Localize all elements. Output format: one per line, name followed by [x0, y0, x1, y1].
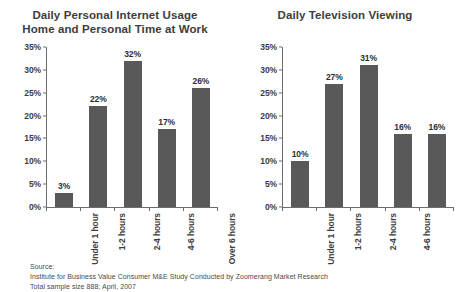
x-axis-category-labels: Under 1 hour 1-2 hours 2-4 hours 4-6 hou… [283, 213, 454, 269]
bar[interactable]: 3% [55, 193, 73, 207]
bar[interactable]: 27% [325, 84, 343, 207]
bar-slot: 32% [115, 47, 149, 207]
x-label-slot: Over 6 hours [420, 213, 454, 269]
bar-value-label: 26% [193, 76, 210, 86]
y-tick-label: 35% [24, 42, 41, 52]
bar-slot: 26% [184, 47, 218, 207]
y-tick-label: 35% [260, 42, 277, 52]
x-tick-mark [217, 207, 218, 211]
chart-television-viewing: Daily Television Viewing 35% 30% 25% 20%… [230, 0, 460, 258]
x-label-slot: Under 1 hour [283, 213, 317, 269]
x-label-slot: 4-6 hours [150, 213, 184, 269]
bar-slot: 3% [47, 47, 81, 207]
plot-area-internet-usage: 35% 30% 25% 20% 15% 10% 5% 0% [18, 47, 218, 215]
bar-value-label: 16% [394, 122, 411, 132]
x-label-slot: Under 1 hour [47, 213, 81, 269]
bar[interactable]: 26% [192, 88, 210, 207]
x-tick-mark [282, 207, 283, 211]
slide-canvas: Daily Personal Internet Usage Home and P… [0, 0, 460, 292]
bar[interactable]: 16% [394, 134, 412, 207]
source-label: Source: [30, 262, 54, 272]
x-tick-mark [149, 207, 150, 211]
bar-value-label: 10% [292, 149, 309, 159]
x-tick-mark [419, 207, 420, 211]
x-tick-mark [316, 207, 317, 211]
y-axis-television-viewing: 35% 30% 25% 20% 15% 10% 5% 0% [254, 47, 282, 207]
chart-title-television-viewing: Daily Television Viewing [230, 9, 460, 23]
bar[interactable]: 10% [291, 161, 309, 207]
bar[interactable]: 17% [158, 129, 176, 207]
plot-area-television-viewing: 35% 30% 25% 20% 15% 10% 5% 0% [254, 47, 454, 215]
x-label-slot: 1-2 hours [81, 213, 115, 269]
chart-title-line-1: Daily Personal Internet Usage [0, 9, 230, 23]
y-tick-label: 15% [24, 133, 41, 143]
x-tick-mark [114, 207, 115, 211]
source-text-line-2: Total sample size 888; April, 2007 [30, 282, 328, 292]
x-axis-category-labels: Under 1 hour 1-2 hours 2-4 hours 4-6 hou… [47, 213, 218, 269]
y-tick-label: 0% [29, 202, 41, 212]
x-label-slot: 4-6 hours [386, 213, 420, 269]
bar-value-label: 17% [158, 117, 175, 127]
x-tick-mark [46, 207, 47, 211]
bar[interactable]: 31% [360, 65, 378, 207]
x-label-slot: Over 6 hours [184, 213, 218, 269]
bar[interactable]: 16% [428, 134, 446, 207]
bar-value-label: 31% [360, 53, 377, 63]
source-text-line-1: Institute for Business Value Consumer M&… [30, 272, 328, 282]
bar-value-label: 27% [326, 72, 343, 82]
y-tick-label: 10% [24, 156, 41, 166]
bar[interactable]: 32% [124, 61, 142, 207]
bar-slot: 10% [283, 47, 317, 207]
x-label-slot: 1-2 hours [317, 213, 351, 269]
y-tick-label: 0% [265, 202, 277, 212]
bar-series-internet-usage: 3% 22% 32% 17% [47, 47, 218, 207]
bar-value-label: 16% [429, 122, 446, 132]
bar-series-television-viewing: 10% 27% 31% 16 [283, 47, 454, 207]
x-tick-mark [350, 207, 351, 211]
chart-title-line-2: Home and Personal Time at Work [0, 23, 230, 37]
bar-slot: 16% [420, 47, 454, 207]
chart-internet-usage: Daily Personal Internet Usage Home and P… [0, 0, 230, 258]
x-tick-marks [282, 207, 454, 211]
y-tick-label: 20% [24, 111, 41, 121]
source-footnote: Source: Institute for Business Value Con… [30, 262, 328, 292]
y-tick-label: 15% [260, 133, 277, 143]
x-label-slot: 2-4 hours [115, 213, 149, 269]
x-tick-mark [385, 207, 386, 211]
chart-title-internet-usage: Daily Personal Internet Usage Home and P… [0, 9, 230, 36]
bar-slot: 17% [150, 47, 184, 207]
bar-value-label: 32% [124, 49, 141, 59]
x-tick-marks [46, 207, 218, 211]
x-tick-mark [183, 207, 184, 211]
bar-slot: 16% [386, 47, 420, 207]
x-tick-mark [453, 207, 454, 211]
y-tick-label: 10% [260, 156, 277, 166]
y-axis-internet-usage: 35% 30% 25% 20% 15% 10% 5% 0% [18, 47, 46, 207]
y-tick-label: 30% [260, 65, 277, 75]
charts-row: Daily Personal Internet Usage Home and P… [0, 0, 460, 258]
chart-title-line-1: Daily Television Viewing [230, 9, 460, 23]
y-tick-label: 20% [260, 111, 277, 121]
bar-slot: 22% [81, 47, 115, 207]
x-tick-mark [80, 207, 81, 211]
y-tick-label: 25% [24, 88, 41, 98]
y-tick-label: 30% [24, 65, 41, 75]
y-tick-label: 25% [260, 88, 277, 98]
bar-value-label: 3% [58, 181, 70, 191]
bar-slot: 27% [317, 47, 351, 207]
y-tick-label: 5% [265, 179, 277, 189]
bar-slot: 31% [351, 47, 385, 207]
x-label-slot: 2-4 hours [351, 213, 385, 269]
source-text: Institute for Business Value Consumer M&… [30, 272, 328, 292]
bar-value-label: 22% [90, 94, 107, 104]
y-tick-label: 5% [29, 179, 41, 189]
bar[interactable]: 22% [89, 106, 107, 207]
